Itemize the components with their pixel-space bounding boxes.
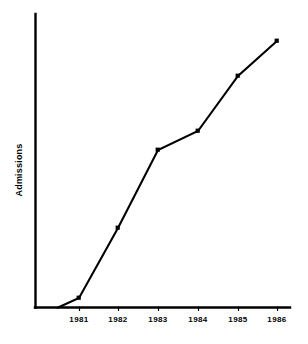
x-tick-label-1982: 1982 <box>108 315 128 324</box>
x-tick-label-1985: 1985 <box>228 315 248 324</box>
chart-container: 1981 1982 1983 1984 1985 1986 Admissions <box>0 0 308 344</box>
chart-background <box>0 0 308 344</box>
data-point-marker <box>196 129 200 133</box>
y-axis-title: Admissions <box>14 143 24 196</box>
data-point-marker <box>77 296 81 300</box>
admissions-line-chart: 1981 1982 1983 1984 1985 1986 Admissions <box>0 0 308 344</box>
data-point-marker <box>156 148 160 152</box>
x-tick-label-1981: 1981 <box>69 315 89 324</box>
x-tick-label-1983: 1983 <box>148 315 168 324</box>
x-tick-label-1984: 1984 <box>188 315 208 324</box>
x-tick-label-1986: 1986 <box>267 315 287 324</box>
data-point-marker <box>236 74 240 78</box>
data-point-marker <box>116 226 120 230</box>
data-point-marker <box>275 39 279 43</box>
